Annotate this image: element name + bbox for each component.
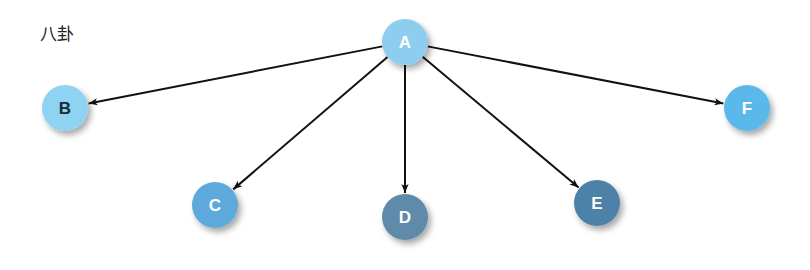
node-label: E [591,194,602,213]
node-E: E [574,180,620,226]
edge-A-C [233,57,387,189]
node-label: A [399,33,411,52]
node-D: D [382,194,428,240]
edges-layer [89,46,724,193]
node-label: F [742,99,752,118]
node-label: B [59,99,71,118]
edge-A-E [423,57,579,188]
edge-A-F [428,46,724,103]
node-B: B [42,85,88,131]
tree-diagram: ABCDEF [0,0,810,270]
edge-A-B [89,46,383,103]
node-A: A [382,19,428,65]
node-C: C [192,182,238,228]
node-label: C [209,196,221,215]
node-label: D [399,208,411,227]
node-F: F [724,85,770,131]
